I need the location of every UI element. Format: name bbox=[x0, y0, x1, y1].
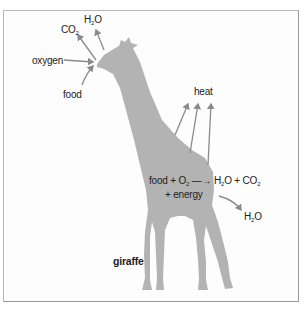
giraffe-silhouette bbox=[97, 37, 233, 290]
food-arrow bbox=[82, 66, 93, 85]
food-label: food bbox=[63, 89, 82, 100]
h2o-output-label: H2O bbox=[244, 211, 262, 223]
co2-label: CO2 bbox=[61, 24, 79, 36]
heat-arrow-3 bbox=[208, 104, 211, 165]
h2o-output-arrow bbox=[219, 196, 241, 210]
oxygen-arrow bbox=[64, 60, 93, 62]
giraffe-label: giraffe bbox=[113, 255, 144, 267]
co2-arrow bbox=[78, 35, 96, 60]
respiration-equation: food + O2 —→ H2O + CO2 bbox=[149, 175, 260, 187]
h2o-label: H2O bbox=[84, 14, 102, 26]
heat-label: heat bbox=[194, 86, 213, 97]
heat-arrow-2 bbox=[190, 104, 198, 153]
heat-arrow-1 bbox=[175, 104, 188, 135]
equation-energy: + energy bbox=[165, 189, 203, 200]
h2o-arrow bbox=[96, 30, 104, 50]
giraffe-diagram-art bbox=[0, 0, 304, 310]
oxygen-label: oxygen bbox=[32, 55, 63, 66]
